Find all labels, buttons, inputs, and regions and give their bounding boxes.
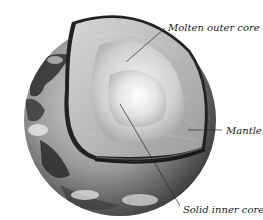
earth-cutaway-illustration [0,0,263,220]
cutaway-wedge [64,15,207,162]
label-mantle: Mantle [226,126,262,136]
label-molten-outer-core: Molten outer core [168,23,260,33]
earth-diagram: Molten outer core Mantle Solid inner cor… [0,0,263,220]
label-solid-inner-core: Solid inner core [183,205,263,215]
